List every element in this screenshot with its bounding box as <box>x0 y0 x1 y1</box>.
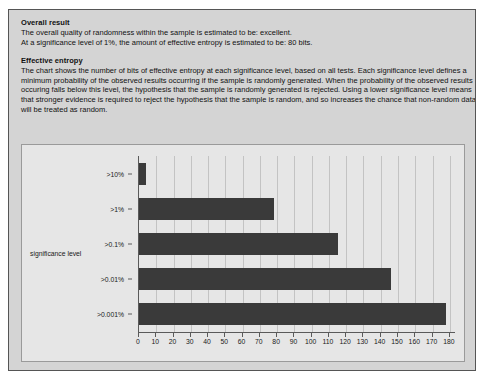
x-axis-tick-label: 160 <box>409 338 420 345</box>
x-axis-tick-label: 120 <box>340 338 351 345</box>
table-row <box>139 163 455 185</box>
bar <box>139 268 391 290</box>
x-axis-tick <box>397 333 398 337</box>
x-axis-tick-label: 180 <box>443 338 454 345</box>
x-axis-tick <box>224 333 225 337</box>
y-axis-tick-label: >0.1% <box>105 241 124 248</box>
x-axis-tick <box>311 333 312 337</box>
effective-entropy-line-2: minimum probability of the observed resu… <box>21 76 469 86</box>
overall-result-heading: Overall result <box>21 18 469 28</box>
overall-result-line-2: At a significance level of 1%, the amoun… <box>21 38 469 48</box>
x-axis-tick <box>190 333 191 337</box>
y-axis-tick-label: >1% <box>110 205 124 212</box>
x-axis-tick-label: 50 <box>221 338 229 345</box>
overall-result-line-1: The overall quality of randomness within… <box>21 28 469 38</box>
y-axis-tick <box>128 244 132 245</box>
effective-entropy-line-4: that stronger evidence is required to re… <box>21 95 469 105</box>
section-spacer <box>21 47 469 56</box>
x-axis-tick <box>380 333 381 337</box>
x-axis-tick-label: 80 <box>272 338 280 345</box>
effective-entropy-heading: Effective entropy <box>21 56 469 66</box>
y-axis-labels: >10%>1%>0.1%>0.01%>0.001% <box>22 156 132 333</box>
x-axis-tick-label: 10 <box>151 338 159 345</box>
x-axis-tick-label: 0 <box>136 338 140 345</box>
x-axis-tick <box>138 333 139 337</box>
x-axis-tick-label: 20 <box>169 338 177 345</box>
bar <box>139 163 146 185</box>
table-row <box>139 303 455 325</box>
x-axis-tick <box>362 333 363 337</box>
x-axis-tick-label: 170 <box>426 338 437 345</box>
x-axis-tick-label: 40 <box>203 338 211 345</box>
x-axis-tick-label: 60 <box>238 338 246 345</box>
effective-entropy-line-3: occuring falls below this level, the hyp… <box>21 85 469 95</box>
x-axis-tick <box>173 333 174 337</box>
bar-series <box>139 156 455 332</box>
results-panel: Overall result The overall quality of ra… <box>8 9 476 371</box>
x-axis-tick-label: 90 <box>290 338 298 345</box>
table-row <box>139 233 455 255</box>
table-row <box>139 198 455 220</box>
effective-entropy-line-1: The chart shows the number of bits of ef… <box>21 66 469 76</box>
x-axis-tick <box>242 333 243 337</box>
x-axis-tick-label: 150 <box>391 338 402 345</box>
x-axis-tick-label: 30 <box>186 338 194 345</box>
y-axis-tick-label: >0.01% <box>101 276 124 283</box>
text-sections: Overall result The overall quality of ra… <box>21 18 469 114</box>
x-axis-tick-label: 130 <box>357 338 368 345</box>
table-row <box>139 268 455 290</box>
y-axis-tick <box>128 173 132 174</box>
y-axis-tick-label: >10% <box>106 170 124 177</box>
effective-entropy-chart: significance level >10%>1%>0.1%>0.01%>0.… <box>21 144 465 362</box>
x-axis-tick <box>449 333 450 337</box>
x-axis-tick-label: 140 <box>374 338 385 345</box>
y-axis-tick <box>128 314 132 315</box>
x-axis-tick <box>276 333 277 337</box>
y-axis-tick <box>128 279 132 280</box>
effective-entropy-line-5: will be treated as random. <box>21 105 469 115</box>
y-axis-tick <box>128 208 132 209</box>
x-axis-tick <box>328 333 329 337</box>
x-axis-tick-label: 110 <box>323 338 334 345</box>
x-axis-tick-label: 100 <box>305 338 316 345</box>
x-axis-tick <box>293 333 294 337</box>
x-axis-tick <box>414 333 415 337</box>
x-axis-tick <box>155 333 156 337</box>
x-axis-tick <box>345 333 346 337</box>
x-axis-tick-label: 70 <box>255 338 263 345</box>
plot-area <box>138 156 455 333</box>
x-axis-tick <box>259 333 260 337</box>
y-axis-tick-label: >0.001% <box>97 311 124 318</box>
bar <box>139 198 274 220</box>
x-axis-tick <box>207 333 208 337</box>
x-axis-tick <box>432 333 433 337</box>
report-page: Overall result The overall quality of ra… <box>0 0 486 381</box>
bar <box>139 233 338 255</box>
bar <box>139 303 446 325</box>
